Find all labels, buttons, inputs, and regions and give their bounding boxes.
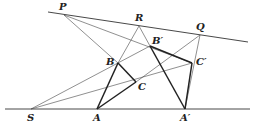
label-a: A [93, 113, 101, 123]
line-rb2 [139, 26, 150, 46]
label-r: R [135, 13, 143, 23]
desargues-diagram: P R Q B B′ C C′ S A A′ [0, 0, 255, 127]
line-scc [31, 63, 192, 109]
label-s: S [27, 113, 34, 123]
edge-bpcp [150, 46, 192, 63]
label-a-prime: A′ [180, 113, 190, 123]
edge-bc [118, 63, 136, 82]
label-q: Q [196, 22, 205, 32]
line-pqr [48, 12, 248, 42]
label-c-prime: C′ [196, 57, 207, 67]
label-b-prime: B′ [152, 36, 163, 46]
edge-apbp [150, 46, 185, 109]
label-p: P [59, 2, 67, 12]
label-c: C [138, 82, 146, 92]
label-b: B [106, 57, 114, 67]
edge-apcp [185, 63, 192, 109]
diagram-lines [0, 0, 255, 127]
